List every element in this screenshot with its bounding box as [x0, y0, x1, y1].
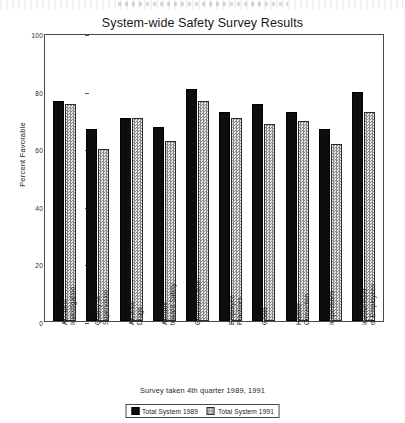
x-axis-label-text: Quality of Supervision — [94, 289, 109, 325]
x-axis-label: Attitude toward Safety — [147, 323, 180, 385]
x-axis-label-text: Involvement of Employees — [361, 284, 376, 325]
solid-black-swatch — [131, 407, 139, 415]
x-axis-label-text: Communication — [194, 278, 202, 325]
legend-label: Total System 1991 — [218, 408, 274, 415]
y-tick-label: 20 — [13, 262, 43, 269]
bar-group — [214, 35, 247, 321]
stippled-gray-swatch — [207, 407, 215, 415]
x-axis-label-text: Employee Practices — [228, 295, 243, 325]
bar-1991 — [132, 118, 143, 321]
x-axis-label: Quality of Supervision — [80, 323, 113, 385]
x-axis-label: Employee Practices — [214, 323, 247, 385]
x-axis-label-text: Accident Investigation — [61, 287, 76, 325]
bar-group — [114, 35, 147, 321]
x-axis-label: Involvement of Employees — [348, 323, 381, 385]
x-axis-label-text: Hazard Correction — [295, 294, 310, 325]
bar-1989 — [286, 112, 297, 321]
chart-title: System-wide Safety Survey Results — [0, 16, 405, 30]
chart-legend: Total System 1989Total System 1991 — [125, 404, 280, 418]
x-axis-label: Hazard Correction — [281, 323, 314, 385]
y-tick-label: 60 — [13, 147, 43, 154]
x-axis-label-text: Alcohol/ Drugs — [128, 301, 143, 325]
bar-1991 — [298, 121, 309, 321]
x-axis-label-text: Inspections — [328, 291, 336, 325]
bars-layer — [45, 35, 383, 321]
bar-group — [247, 35, 280, 321]
bar-group — [148, 35, 181, 321]
bar-1989 — [252, 104, 263, 321]
scan-artifact-streak — [118, 2, 288, 6]
bar-group — [314, 35, 347, 321]
x-axis-label: Accident Investigation — [47, 323, 80, 385]
bar-1991 — [264, 124, 275, 321]
y-tick-label: 0 — [13, 320, 43, 327]
legend-item: Total System 1989 — [131, 407, 198, 415]
bar-1989 — [219, 112, 230, 321]
y-axis-title: Percent Favorable — [18, 95, 27, 215]
x-axis-label: Goals — [247, 323, 280, 385]
bar-group — [48, 35, 81, 321]
bar-group — [280, 35, 313, 321]
y-tick-label: 80 — [13, 89, 43, 96]
bar-group — [347, 35, 380, 321]
x-axis-label: Alcohol/ Drugs — [114, 323, 147, 385]
legend-item: Total System 1991 — [207, 407, 274, 415]
y-tick-label: 100 — [13, 32, 43, 39]
x-axis-label-text: Goals — [261, 307, 269, 325]
x-axis-label-text: Attitude toward Safety — [161, 283, 176, 325]
x-axis-caption: Survey taken 4th quarter 1989, 1991 — [0, 386, 405, 395]
plot-area: 020406080100 — [44, 34, 384, 322]
bar-1991 — [231, 118, 242, 321]
bar-1989 — [120, 118, 131, 321]
legend-label: Total System 1989 — [142, 408, 198, 415]
x-axis-label: Inspections — [314, 323, 347, 385]
y-tick-label: 40 — [13, 204, 43, 211]
bar-group — [81, 35, 114, 321]
x-axis-label: Communication — [181, 323, 214, 385]
x-axis-labels: Accident InvestigationQuality of Supervi… — [44, 323, 384, 385]
